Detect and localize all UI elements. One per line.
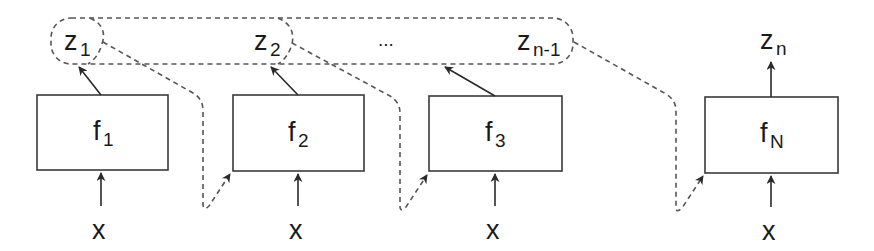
svg-text:z: z	[760, 25, 774, 55]
svg-text:f: f	[288, 117, 296, 147]
svg-text:z: z	[64, 26, 78, 56]
arrow-f3-to-zn-1	[445, 67, 495, 96]
svg-text:z: z	[254, 26, 268, 56]
svg-text:3: 3	[495, 130, 506, 151]
svg-text:1: 1	[103, 129, 114, 150]
input-x-3: x	[486, 215, 500, 245]
z1-label: z 1	[64, 26, 91, 60]
svg-text:z: z	[517, 26, 531, 56]
block-f1: f 1	[37, 95, 168, 170]
dashed-link-zn-1-to-fN	[574, 42, 703, 211]
input-x-2: x	[289, 215, 303, 245]
z2-label: z 2	[254, 26, 281, 60]
svg-text:1: 1	[80, 39, 91, 60]
svg-text:N: N	[770, 131, 784, 152]
svg-text:n-1: n-1	[533, 39, 560, 60]
block-f3: f 3	[429, 96, 562, 171]
svg-text:f: f	[93, 116, 101, 146]
input-x-N: x	[762, 216, 776, 246]
block-fN: f N	[705, 97, 838, 173]
svg-text:2: 2	[270, 39, 281, 60]
svg-text:f: f	[485, 117, 493, 147]
zn-output-label: z n	[760, 25, 787, 59]
ellipsis: ...	[378, 29, 394, 50]
arrow-f1-to-z1	[79, 67, 101, 95]
svg-text:f: f	[760, 118, 768, 148]
arrow-f2-to-z2	[271, 67, 298, 95]
zn-1-label: z n-1	[517, 26, 560, 60]
svg-text:n: n	[776, 38, 787, 59]
svg-text:2: 2	[298, 130, 309, 151]
block-f2: f 2	[233, 95, 364, 171]
function-chain-diagram: z 1 z 2 ... z n-1 f 1 f 2 f 3 f N z n	[0, 0, 874, 251]
input-x-1: x	[92, 215, 106, 245]
